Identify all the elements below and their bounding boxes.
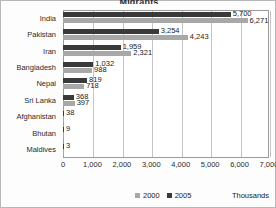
bar-2005[interactable] — [63, 12, 231, 17]
bar-2005[interactable] — [63, 111, 64, 116]
bar-chart: Migrants IndiaPakistanIranBangladeshNepa… — [0, 0, 276, 208]
legend-item-2005[interactable]: 2005 — [167, 191, 192, 200]
category-axis-labels: IndiaPakistanIranBangladeshNepalSri Lank… — [1, 10, 59, 158]
value-label-2000: 2,321 — [133, 49, 152, 56]
value-label-2000: 718 — [86, 82, 99, 89]
bar-2005[interactable] — [63, 45, 121, 50]
bar-2005[interactable] — [63, 95, 74, 100]
bar-row: 819718 — [63, 76, 269, 92]
bar-rows: 5,7006,2713,2544,2431,9592,3211,03298881… — [63, 10, 269, 158]
bar-row: 3,2544,243 — [63, 26, 269, 42]
category-label-bhutan: Bhutan — [1, 125, 59, 141]
value-axis-labels: 01,0002,0003,0004,0005,0006,0007,000 — [63, 160, 269, 170]
bar-2000[interactable] — [63, 51, 131, 56]
category-label-maldives: Maldives — [1, 142, 59, 158]
bar-2005[interactable] — [63, 127, 64, 132]
category-label-iran: Iran — [1, 43, 59, 59]
bar-row: 38 — [63, 109, 269, 125]
x-tick-label: 4,000 — [171, 160, 190, 169]
bar-2000[interactable] — [63, 133, 64, 138]
x-tick-label: 3,000 — [142, 160, 161, 169]
value-label-2005: 38 — [66, 109, 74, 116]
bar-row: 1,032988 — [63, 59, 269, 75]
bar-2000[interactable] — [63, 117, 64, 122]
bar-2000[interactable] — [63, 150, 64, 155]
legend-items: 2000 2005 — [135, 191, 191, 200]
bar-2005[interactable] — [63, 78, 87, 83]
value-label-2000: 397 — [77, 99, 90, 106]
value-label-2000: 988 — [94, 66, 107, 73]
bar-row: 3 — [63, 142, 269, 158]
units-label: Thousands — [232, 191, 269, 200]
x-tick-label: 7,000 — [260, 160, 276, 169]
bar-2000[interactable] — [63, 84, 84, 89]
x-tick-label: 0 — [61, 160, 65, 169]
value-label-2005: 3 — [66, 142, 70, 149]
value-label-2005: 9 — [66, 125, 70, 132]
bar-2005[interactable] — [63, 144, 64, 149]
bar-row: 368397 — [63, 92, 269, 108]
x-tick-label: 2,000 — [112, 160, 131, 169]
chart-legend: 2000 2005 Thousands — [1, 191, 276, 203]
bar-row: 9 — [63, 125, 269, 141]
bar-2005[interactable] — [63, 62, 93, 67]
legend-label-2000: 2000 — [143, 191, 160, 200]
category-label-sri-lanka: Sri Lanka — [1, 92, 59, 108]
chart-title: Migrants — [1, 0, 276, 4]
value-label-2000: 4,243 — [190, 33, 209, 40]
bar-2000[interactable] — [63, 35, 188, 40]
category-label-afghanistan: Afghanistan — [1, 109, 59, 125]
legend-swatch-2005-icon — [167, 193, 172, 198]
bar-2000[interactable] — [63, 18, 248, 23]
legend-swatch-2000-icon — [135, 193, 140, 198]
bar-2000[interactable] — [63, 101, 75, 106]
x-tick-label: 5,000 — [201, 160, 220, 169]
bar-2005[interactable] — [63, 29, 159, 34]
gridline — [270, 11, 271, 157]
legend-item-2000[interactable]: 2000 — [135, 191, 160, 200]
bar-2000[interactable] — [63, 68, 92, 73]
category-label-pakistan: Pakistan — [1, 26, 59, 42]
category-label-bangladesh: Bangladesh — [1, 59, 59, 75]
bar-row: 5,7006,271 — [63, 10, 269, 26]
legend-label-2005: 2005 — [175, 191, 192, 200]
category-label-india: India — [1, 10, 59, 26]
category-label-nepal: Nepal — [1, 76, 59, 92]
bar-row: 1,9592,321 — [63, 43, 269, 59]
value-label-2005: 3,254 — [161, 27, 180, 34]
value-label-2000: 6,271 — [250, 17, 269, 24]
x-tick-label: 6,000 — [230, 160, 249, 169]
x-tick-label: 1,000 — [83, 160, 102, 169]
